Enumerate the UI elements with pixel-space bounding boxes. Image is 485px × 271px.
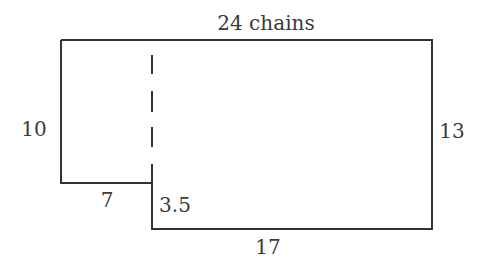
outline-path	[61, 40, 432, 229]
label-left: 10	[21, 117, 46, 141]
label-step-bottom: 7	[101, 188, 114, 212]
label-right: 13	[439, 119, 464, 143]
label-step-side: 3.5	[159, 193, 191, 217]
label-top: 24 chains	[217, 11, 314, 35]
plot-outline	[61, 40, 432, 229]
label-bottom: 17	[255, 235, 280, 259]
plot-diagram: 24 chains 10 13 7 3.5 17	[0, 0, 485, 271]
